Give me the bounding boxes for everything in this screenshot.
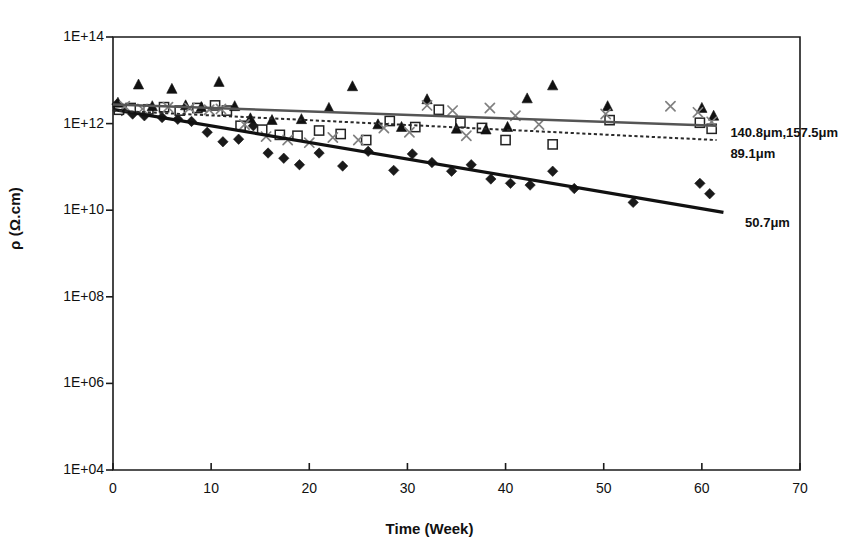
marker-filled-diamond-0-25	[547, 166, 557, 176]
marker-filled-diamond-0-22	[486, 174, 496, 184]
figure-chart-resistivity-vs-time: ρ (Ω.cm) Time (Week) 1E+041E+061E+081E+1…	[0, 0, 859, 560]
x-axis-title: Time (Week)	[0, 520, 859, 537]
label-50: 50.7μm	[745, 215, 790, 230]
marker-filled-diamond-0-8	[218, 137, 228, 147]
marker-open-square-1-17	[434, 105, 443, 114]
marker-filled-triangle-2-23	[708, 110, 718, 120]
x-tick-label-60: 60	[677, 480, 727, 496]
marker-filled-diamond-0-13	[294, 160, 304, 170]
marker-open-square-1-21	[548, 140, 557, 149]
marker-cross-x-3-17	[485, 103, 494, 112]
marker-filled-diamond-0-7	[202, 127, 212, 137]
marker-cross-x-3-19	[534, 120, 543, 129]
marker-filled-triangle-2-20	[548, 80, 558, 90]
plot-canvas	[0, 0, 859, 560]
marker-filled-triangle-2-6	[214, 76, 224, 86]
marker-filled-diamond-0-15	[337, 161, 347, 171]
x-tick-label-10: 10	[186, 480, 236, 496]
marker-filled-triangle-2-1	[133, 79, 143, 89]
marker-open-square-1-12	[315, 126, 324, 135]
x-tick-label-0: 0	[88, 480, 138, 496]
marker-filled-diamond-0-17	[388, 165, 398, 175]
marker-filled-triangle-2-12	[347, 81, 357, 91]
y-tick-label-1E+04: 1E+04	[22, 461, 104, 477]
marker-open-square-1-14	[362, 135, 371, 144]
marker-filled-diamond-0-11	[263, 148, 273, 158]
marker-filled-diamond-0-14	[314, 148, 324, 158]
marker-cross-x-3-21	[666, 102, 675, 111]
marker-filled-triangle-2-19	[522, 93, 532, 103]
y-tick-label-1E+12: 1E+12	[22, 115, 104, 131]
y-tick-label-1E+08: 1E+08	[22, 288, 104, 304]
y-tick-label-1E+14: 1E+14	[22, 28, 104, 44]
x-tick-label-30: 30	[382, 480, 432, 496]
x-tick-label-50: 50	[579, 480, 629, 496]
x-tick-label-70: 70	[775, 480, 825, 496]
y-axis-title: ρ (Ω.cm)	[6, 187, 23, 250]
marker-filled-diamond-0-9	[233, 134, 243, 144]
marker-filled-diamond-0-12	[279, 153, 289, 163]
y-tick-label-1E+06: 1E+06	[22, 374, 104, 390]
marker-filled-triangle-2-3	[167, 83, 177, 93]
marker-filled-diamond-0-29	[705, 189, 715, 199]
x-tick-label-20: 20	[284, 480, 334, 496]
y-tick-label-1E+10: 1E+10	[22, 201, 104, 217]
marker-filled-diamond-0-28	[695, 178, 705, 188]
marker-filled-diamond-0-23	[505, 178, 515, 188]
marker-open-square-1-20	[501, 135, 510, 144]
marker-filled-triangle-2-14	[396, 121, 406, 131]
marker-filled-triangle-2-10	[296, 114, 306, 124]
label-89: 89.1μm	[730, 146, 775, 161]
marker-cross-x-3-16	[462, 131, 471, 140]
marker-cross-x-3-15	[448, 106, 457, 115]
x-tick-label-40: 40	[481, 480, 531, 496]
label-140-157: 140.8μm,157.5μm	[730, 125, 838, 140]
marker-filled-diamond-0-18	[407, 149, 417, 159]
marker-filled-triangle-2-21	[602, 101, 612, 111]
